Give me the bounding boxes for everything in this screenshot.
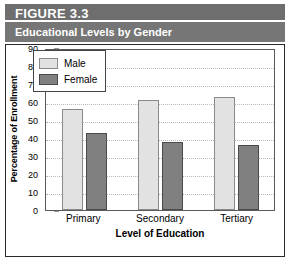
y-axis-title: Percentage of Enrollment [7,45,21,213]
y-axis-title-text: Percentage of Enrollment [9,76,19,183]
bar-primary-male [62,109,83,210]
y-axis-tick-label: 20 [28,170,38,180]
bar-tertiary-male [214,97,235,210]
x-axis-title: Level of Education [45,228,275,239]
x-axis-tick-label: Secondary [122,213,199,224]
x-axis-tick-label: Tertiary [198,213,275,224]
bar-group [198,50,274,210]
legend-label-female: Female [64,74,97,85]
y-axis-tick-label: 10 [28,188,38,198]
bar-group [122,50,198,210]
legend: Male Female [33,50,106,92]
figure-container: FIGURE 3.3 Educational Levels by Gender … [0,0,290,268]
y-axis-tick-label: 60 [28,98,38,108]
bar-primary-female [86,133,107,210]
figure-number-band: FIGURE 3.3 [5,4,285,20]
x-axis-ticks: PrimarySecondaryTertiary [45,213,275,224]
bar-secondary-male [138,100,159,210]
bar-secondary-female [162,142,183,210]
y-axis-tick-label: 30 [28,152,38,162]
legend-swatch-male [39,58,58,69]
y-axis-tick-label: 50 [28,116,38,126]
figure-title-band: Educational Levels by Gender [5,22,285,42]
legend-item-female: Female [39,71,97,87]
legend-item-male: Male [39,55,97,71]
x-axis-tick-label: Primary [45,213,122,224]
legend-swatch-female [39,74,58,85]
chart-frame: Percentage of Enrollment 908070605040302… [5,44,285,257]
bar-tertiary-female [238,145,259,210]
y-axis-tick-label: 40 [28,134,38,144]
y-axis-tick-label: 0 [33,206,38,216]
legend-label-male: Male [64,58,86,69]
